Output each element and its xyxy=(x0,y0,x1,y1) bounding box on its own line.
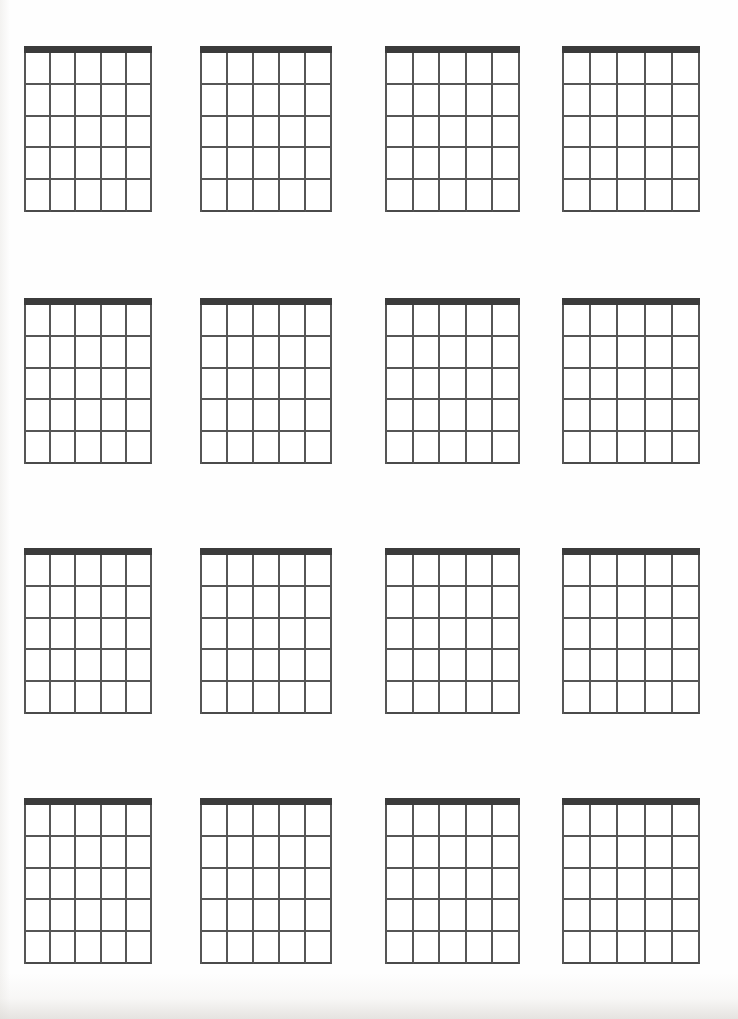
fret-cell[interactable] xyxy=(127,837,152,869)
fret-cell[interactable] xyxy=(646,805,673,837)
fret-cell[interactable] xyxy=(51,117,76,149)
fret-cell[interactable] xyxy=(591,369,618,401)
fret-cell[interactable] xyxy=(76,619,101,651)
fret-cell[interactable] xyxy=(440,932,467,964)
fret-cell[interactable] xyxy=(591,650,618,682)
fret-cell[interactable] xyxy=(618,682,645,714)
fret-cell[interactable] xyxy=(467,587,494,619)
fret-cell[interactable] xyxy=(414,932,441,964)
fret-cell[interactable] xyxy=(467,305,494,337)
fret-cell[interactable] xyxy=(202,869,228,901)
fret-cell[interactable] xyxy=(228,555,254,587)
fret-cell[interactable] xyxy=(51,432,76,464)
fret-cell[interactable] xyxy=(387,148,414,180)
fret-cell[interactable] xyxy=(591,337,618,369)
fret-cell[interactable] xyxy=(51,400,76,432)
fret-cell[interactable] xyxy=(440,432,467,464)
fret-cell[interactable] xyxy=(26,650,51,682)
fret-cell[interactable] xyxy=(202,432,228,464)
fret-cell[interactable] xyxy=(254,837,280,869)
fret-cell[interactable] xyxy=(387,337,414,369)
fret-cell[interactable] xyxy=(102,148,127,180)
fret-cell[interactable] xyxy=(280,619,306,651)
chord-diagram[interactable] xyxy=(200,298,332,464)
fret-cell[interactable] xyxy=(254,305,280,337)
fret-cell[interactable] xyxy=(467,337,494,369)
fret-cell[interactable] xyxy=(673,85,700,117)
fret-cell[interactable] xyxy=(673,432,700,464)
fret-cell[interactable] xyxy=(387,682,414,714)
fret-cell[interactable] xyxy=(564,682,591,714)
fret-cell[interactable] xyxy=(76,650,101,682)
fret-cell[interactable] xyxy=(76,587,101,619)
fret-cell[interactable] xyxy=(228,869,254,901)
fret-cell[interactable] xyxy=(646,148,673,180)
fret-cell[interactable] xyxy=(591,85,618,117)
fret-cell[interactable] xyxy=(618,587,645,619)
fret-cell[interactable] xyxy=(280,682,306,714)
fret-cell[interactable] xyxy=(673,337,700,369)
fret-cell[interactable] xyxy=(440,117,467,149)
fret-cell[interactable] xyxy=(564,432,591,464)
fret-cell[interactable] xyxy=(202,117,228,149)
fret-cell[interactable] xyxy=(618,869,645,901)
fret-cell[interactable] xyxy=(26,555,51,587)
fret-cell[interactable] xyxy=(26,180,51,212)
fret-cell[interactable] xyxy=(26,432,51,464)
fret-cell[interactable] xyxy=(306,400,332,432)
fret-cell[interactable] xyxy=(26,400,51,432)
fret-cell[interactable] xyxy=(646,53,673,85)
fret-cell[interactable] xyxy=(591,53,618,85)
fret-cell[interactable] xyxy=(26,369,51,401)
fret-cell[interactable] xyxy=(127,900,152,932)
fret-cell[interactable] xyxy=(280,650,306,682)
fret-cell[interactable] xyxy=(280,900,306,932)
fret-cell[interactable] xyxy=(493,400,520,432)
fret-cell[interactable] xyxy=(102,837,127,869)
chord-diagram[interactable] xyxy=(562,46,700,212)
fret-cell[interactable] xyxy=(306,117,332,149)
fret-cell[interactable] xyxy=(591,148,618,180)
fret-cell[interactable] xyxy=(618,53,645,85)
fret-cell[interactable] xyxy=(254,432,280,464)
fret-cell[interactable] xyxy=(440,180,467,212)
fret-cell[interactable] xyxy=(493,555,520,587)
fret-cell[interactable] xyxy=(387,85,414,117)
fret-cell[interactable] xyxy=(228,587,254,619)
fret-cell[interactable] xyxy=(280,932,306,964)
fret-cell[interactable] xyxy=(280,117,306,149)
fret-cell[interactable] xyxy=(467,682,494,714)
fret-cell[interactable] xyxy=(228,619,254,651)
fret-cell[interactable] xyxy=(673,53,700,85)
fret-cell[interactable] xyxy=(127,53,152,85)
fret-cell[interactable] xyxy=(51,555,76,587)
fret-cell[interactable] xyxy=(591,587,618,619)
fret-cell[interactable] xyxy=(76,869,101,901)
fret-cell[interactable] xyxy=(51,305,76,337)
fret-cell[interactable] xyxy=(202,900,228,932)
fret-cell[interactable] xyxy=(306,148,332,180)
fret-cell[interactable] xyxy=(591,837,618,869)
fret-cell[interactable] xyxy=(591,932,618,964)
fret-cell[interactable] xyxy=(467,650,494,682)
fret-cell[interactable] xyxy=(591,305,618,337)
fret-cell[interactable] xyxy=(618,369,645,401)
fret-cell[interactable] xyxy=(440,682,467,714)
chord-diagram[interactable] xyxy=(562,798,700,964)
chord-diagram[interactable] xyxy=(200,798,332,964)
fret-cell[interactable] xyxy=(280,305,306,337)
fret-cell[interactable] xyxy=(467,117,494,149)
fret-cell[interactable] xyxy=(493,900,520,932)
fret-cell[interactable] xyxy=(280,805,306,837)
fret-cell[interactable] xyxy=(493,619,520,651)
fret-cell[interactable] xyxy=(564,85,591,117)
fret-cell[interactable] xyxy=(591,432,618,464)
fret-cell[interactable] xyxy=(440,650,467,682)
fret-cell[interactable] xyxy=(102,305,127,337)
fret-cell[interactable] xyxy=(202,555,228,587)
fret-cell[interactable] xyxy=(618,400,645,432)
fret-cell[interactable] xyxy=(618,85,645,117)
fret-cell[interactable] xyxy=(673,369,700,401)
fret-cell[interactable] xyxy=(618,432,645,464)
fret-cell[interactable] xyxy=(493,837,520,869)
